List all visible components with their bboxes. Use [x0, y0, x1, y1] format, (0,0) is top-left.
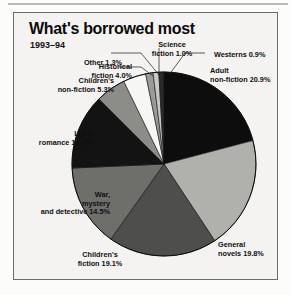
label-childrens-non-fiction-line2: non-fiction 5.3%	[22, 86, 114, 95]
label-westerns-line1: Westerns 0.9%	[214, 50, 265, 59]
label-westerns: Westerns 0.9%	[214, 51, 291, 60]
label-war-mystery-detective: War, mystery and detective 14.5%	[14, 191, 110, 217]
figure-page: What's borrowed most 1993–94 Other 1.3% …	[0, 0, 291, 295]
label-light-romance: Light romance 13.2%	[16, 130, 92, 147]
chart-figure-box: What's borrowed most 1993–94 Other 1.3% …	[13, 12, 278, 280]
label-light-romance-line2: romance 13.2%	[16, 139, 92, 148]
label-science-fiction: Science fiction 1.0%	[136, 41, 208, 58]
label-childrens-non-fiction: Children's non-fiction 5.3%	[22, 77, 114, 94]
label-science-fiction-line2: fiction 1.0%	[136, 50, 208, 59]
label-childrens-fiction-line2: fiction 19.1%	[62, 260, 138, 269]
label-war-line3: and detective 14.5%	[14, 208, 110, 217]
label-adult-non-fiction-line2: non-fiction 20.9%	[210, 76, 291, 85]
label-general-novels-line2: novels 19.8%	[218, 250, 288, 259]
label-general-novels: General novels 19.8%	[218, 241, 288, 258]
pie-slice-group	[72, 72, 256, 256]
label-adult-non-fiction: Adult non-fiction 20.9%	[210, 67, 291, 84]
label-childrens-fiction: Children's fiction 19.1%	[62, 251, 138, 268]
